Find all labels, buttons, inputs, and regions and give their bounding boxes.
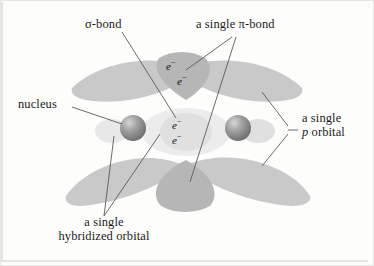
electron-charge: − <box>171 58 176 67</box>
label-p-orbital-line1: a single <box>302 112 341 126</box>
label-hybridized-line2: hybridized orbital <box>22 230 186 244</box>
left-nucleus-sphere <box>120 115 146 141</box>
electron-charge: − <box>177 132 182 141</box>
label-sigma-bond: σ-bond <box>85 18 122 32</box>
label-hybridized-line1: a single <box>56 216 152 230</box>
right-nucleus-sphere <box>225 115 251 141</box>
electron-label-pi-2: e− <box>177 73 186 87</box>
electron-label-pi-1: e− <box>166 58 175 72</box>
electron-charge: − <box>182 73 187 82</box>
label-pi-bond: a single π-bond <box>196 18 275 32</box>
label-p-orbital-line2: p orbital <box>302 126 345 140</box>
label-p-orbital-rest: orbital <box>308 125 345 139</box>
sigma-bond-core <box>160 113 212 151</box>
electron-label-sigma-2: e− <box>172 132 181 146</box>
orbital-diagram-figure: σ-bond a single π-bond nucleus a single … <box>0 0 374 266</box>
electron-charge: − <box>177 117 182 126</box>
label-nucleus: nucleus <box>18 98 57 112</box>
electron-label-sigma-1: e− <box>172 117 181 131</box>
